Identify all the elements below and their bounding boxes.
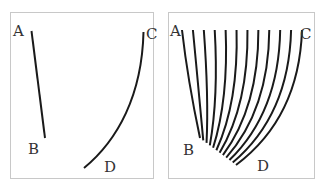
label-b-left: B <box>28 140 39 158</box>
fan-curve <box>204 30 207 143</box>
label-a-right: A <box>169 22 181 40</box>
right-panel-drawing <box>182 30 302 165</box>
label-b-right: B <box>183 141 194 159</box>
label-d-left: D <box>104 158 116 176</box>
label-a-left: A <box>12 22 24 40</box>
label-c-left: C <box>146 25 157 43</box>
line-a-b <box>32 31 46 138</box>
diagram-canvas: A B C D A B C D <box>0 0 321 187</box>
label-d-right: D <box>257 157 269 175</box>
left-panel-drawing: A B C D <box>12 22 157 176</box>
curve-c-d <box>84 32 144 168</box>
label-c-right: C <box>300 25 311 43</box>
fan-curve <box>210 30 216 145</box>
